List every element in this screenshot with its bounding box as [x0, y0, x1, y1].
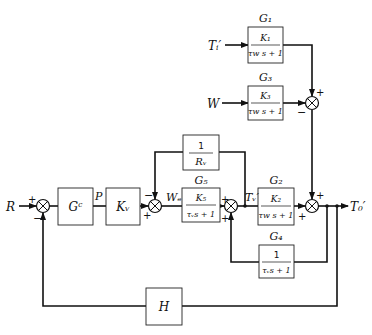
- g5-title: G₅: [194, 174, 208, 187]
- we-signal-label: Wₑ: [166, 191, 182, 204]
- ti-input-label: Tᵢ′: [208, 39, 221, 53]
- t0-output-label: T₀′: [350, 200, 366, 214]
- g5-numerator: K₅: [195, 193, 207, 203]
- sum1-minus-sign: −: [33, 212, 42, 225]
- sum3-plus-sign-bottom: +: [221, 213, 229, 224]
- gc-label: Gᶜ: [69, 200, 83, 214]
- kv-label: Kᵥ: [115, 200, 129, 214]
- g2-numerator: K₂: [270, 194, 282, 204]
- g4-feedback-left: [231, 213, 259, 262]
- p-signal-label: P: [94, 190, 103, 203]
- g4-denominator: τᵥs + 1: [262, 266, 290, 275]
- w-input-label: W: [207, 97, 221, 111]
- sum1-plus-sign: +: [28, 194, 36, 205]
- g2-denominator: τw s + 1: [259, 211, 294, 220]
- g5-denominator: τᵥs + 1: [187, 210, 215, 219]
- g2-title: G₂: [269, 174, 282, 187]
- block-diagram: Gᶜ Kᵥ 1 Rᵥ G₅ K₅ τᵥs + 1 G₂ K₂ τw s + 1 …: [0, 0, 372, 335]
- g3-title: G₃: [259, 71, 272, 84]
- g3-denominator: τw s + 1: [248, 107, 283, 116]
- g3-numerator: K₃: [259, 91, 271, 101]
- sum4-plus-sign-top: +: [316, 190, 324, 201]
- h-branch-node: [335, 204, 339, 208]
- rv-denominator: Rᵥ: [194, 156, 207, 167]
- sum2-minus-sign: −: [144, 189, 153, 202]
- sum-junction-4: [306, 200, 319, 213]
- g4-branch-node: [325, 204, 329, 208]
- h-feedback-left: [43, 213, 146, 306]
- g1-title: G₁: [259, 12, 272, 25]
- sum-junction-1: [37, 200, 50, 213]
- g1-numerator: K₁: [259, 33, 270, 43]
- g4-numerator: 1: [274, 250, 280, 260]
- tv-signal-label: Tᵥ′: [245, 191, 259, 204]
- rv-numerator: 1: [198, 141, 204, 151]
- tv-branch-node: [243, 204, 247, 208]
- g4-title: G₄: [269, 230, 282, 243]
- h-label: H: [158, 300, 170, 314]
- sum5-plus-sign-top: +: [316, 87, 324, 98]
- g1-to-sum5-arrow: [283, 45, 312, 96]
- sum4-plus-sign-left: +: [298, 211, 306, 222]
- sum-junction-5: [306, 97, 319, 110]
- sum5-minus-sign: −: [297, 106, 306, 119]
- sum3-plus-sign-left: +: [221, 194, 229, 205]
- g1-denominator: τw s + 1: [248, 49, 283, 58]
- r-input-label: R: [5, 200, 15, 214]
- sum2-plus-sign: +: [143, 210, 151, 221]
- diagram-canvas: Gᶜ Kᵥ 1 Rᵥ G₅ K₅ τᵥs + 1 G₂ K₂ τw s + 1 …: [0, 0, 372, 335]
